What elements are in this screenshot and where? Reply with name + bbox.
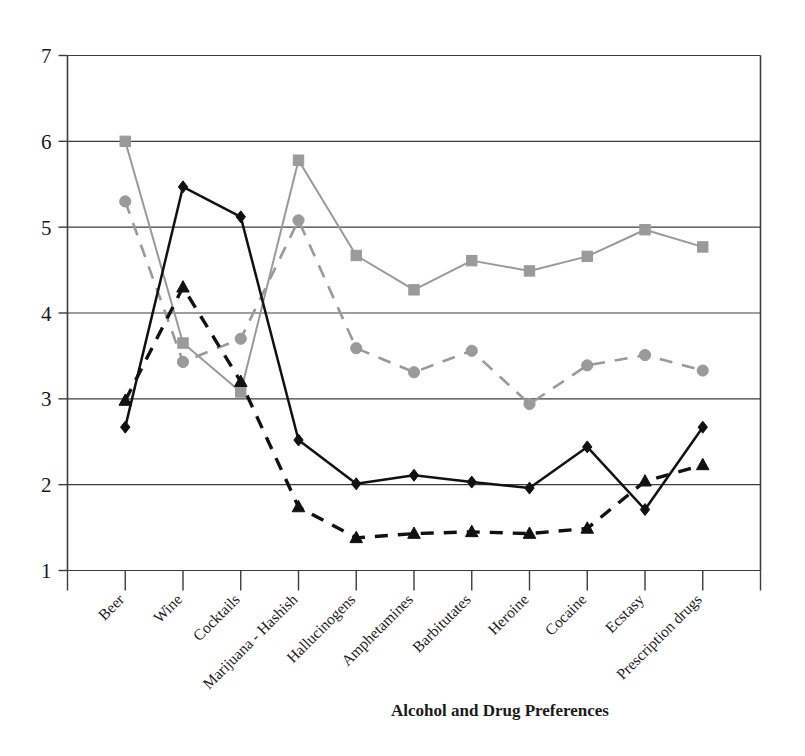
series-black-solid-diamond-marker-7 (525, 482, 534, 494)
series-gray-solid-square-marker-0 (120, 136, 130, 146)
series-gray-dashed-circle-marker-0 (120, 196, 131, 207)
series-gray-solid-square-marker-6 (467, 255, 477, 265)
y-tick-label-5: 5 (41, 216, 52, 240)
series-gray-solid-square-marker-8 (582, 251, 592, 261)
y-axis-ticks-group: 1234567 (41, 44, 68, 583)
series-black-solid-diamond (121, 181, 708, 516)
y-tick-label-1: 1 (41, 559, 52, 583)
series-gray-dashed-circle-marker-3 (293, 215, 304, 226)
series-gray-solid-square-marker-1 (178, 338, 188, 348)
x-axis-labels-group: BeerWineCocktailsMarijuana - HashishHall… (95, 590, 705, 692)
series-black-solid-diamond-marker-6 (467, 476, 476, 488)
series-black-dashed-triangle-marker-9 (639, 475, 652, 486)
x-axis-ticks-group (68, 571, 761, 591)
y-tick-label-3: 3 (41, 387, 52, 411)
series-gray-solid-square-marker-4 (351, 250, 361, 260)
series-gray-dashed-circle-marker-4 (351, 343, 362, 354)
y-tick-label-7: 7 (41, 44, 52, 68)
series-gray-dashed-circle-marker-10 (697, 365, 708, 376)
series-gray-dashed-circle-marker-1 (177, 356, 188, 367)
x-tick-label-6: Barbitutates (409, 591, 474, 656)
series-gray-solid-square-marker-9 (640, 225, 650, 235)
series-black-solid-diamond-marker-5 (409, 469, 418, 481)
series-gray-solid-square-marker-5 (409, 285, 419, 295)
series-black-solid-diamond-marker-2 (236, 211, 245, 223)
series-gray-dashed-circle-marker-9 (639, 349, 650, 360)
series-black-dashed-triangle-marker-1 (177, 281, 190, 292)
series-gray-dashed-circle-marker-2 (235, 333, 246, 344)
x-tick-label-1: Wine (150, 591, 185, 626)
series-gray-solid-square-marker-7 (524, 266, 534, 276)
series-black-solid-diamond-line (125, 187, 703, 510)
series-gray-solid-square-line (125, 141, 703, 392)
x-tick-label-7: Heroine (484, 591, 531, 638)
data-series-group (119, 136, 709, 543)
series-black-dashed-triangle-line (125, 287, 703, 538)
series-gray-solid-square-marker-10 (698, 242, 708, 252)
x-axis-title: Alcohol and Drug Preferences (391, 701, 609, 720)
series-gray-dashed-circle (120, 196, 709, 410)
series-black-solid-diamond-marker-4 (352, 478, 361, 490)
series-black-solid-diamond-marker-1 (178, 181, 187, 193)
series-gray-dashed-circle-marker-6 (466, 345, 477, 356)
series-gray-dashed-circle-marker-8 (582, 360, 593, 371)
x-tick-label-3: Marijuana - Hashish (199, 590, 301, 692)
line-chart-plot: 1234567 BeerWineCocktailsMarijuana - Has… (0, 0, 805, 756)
series-gray-dashed-circle-marker-5 (408, 367, 419, 378)
y-tick-label-4: 4 (41, 302, 52, 326)
series-black-dashed-triangle-marker-3 (292, 500, 305, 511)
x-tick-label-9: Ecstasy (602, 590, 648, 636)
x-tick-label-2: Cocktails (189, 591, 242, 644)
x-tick-label-8: Cocaine (541, 591, 589, 639)
chart-figure: 1234567 BeerWineCocktailsMarijuana - Has… (0, 0, 805, 756)
y-tick-label-6: 6 (41, 130, 52, 154)
series-gray-solid-square-marker-3 (293, 155, 303, 165)
series-gray-dashed-circle-marker-7 (524, 398, 535, 409)
series-black-dashed-triangle (119, 281, 709, 543)
series-black-solid-diamond-marker-3 (294, 434, 303, 446)
series-gray-solid-square (120, 136, 708, 397)
y-tick-label-2: 2 (41, 473, 52, 497)
series-gray-solid-square-marker-2 (236, 387, 246, 397)
series-black-solid-diamond-marker-0 (121, 421, 130, 433)
series-black-dashed-triangle-marker-10 (696, 458, 709, 469)
x-tick-label-0: Beer (95, 590, 128, 623)
